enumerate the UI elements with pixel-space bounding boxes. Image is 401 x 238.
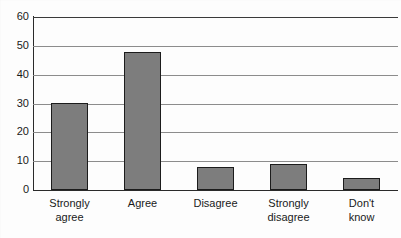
y-tick-label-40: 40 xyxy=(3,69,29,80)
bar-agree xyxy=(124,52,161,190)
bar-chart-figure: 0102030405060 Strongly agreeAgreeDisagre… xyxy=(0,0,401,238)
x-axis-line xyxy=(33,190,398,191)
bar-don-t-know xyxy=(343,178,380,190)
x-label-strongly-disagree: Strongly disagree xyxy=(252,196,325,224)
bar-disagree xyxy=(197,167,234,190)
y-tick-label-30: 30 xyxy=(3,98,29,109)
plot-area xyxy=(33,17,398,190)
x-label-disagree: Disagree xyxy=(179,196,252,210)
x-label-don-t-know: Don't know xyxy=(325,196,398,224)
y-tick-label-50: 50 xyxy=(3,40,29,51)
x-label-agree: Agree xyxy=(106,196,179,210)
y-tick-label-60: 60 xyxy=(3,11,29,22)
y-tick-label-20: 20 xyxy=(3,126,29,137)
y-tick-label-10: 10 xyxy=(3,155,29,166)
y-tick-label-0: 0 xyxy=(3,184,29,195)
bar-strongly-disagree xyxy=(270,164,307,190)
bar-strongly-agree xyxy=(51,103,88,190)
x-label-strongly-agree: Strongly agree xyxy=(33,196,106,224)
